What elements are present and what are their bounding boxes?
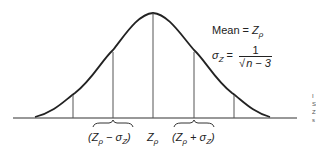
label-text: − σ xyxy=(103,131,122,143)
side-char: s xyxy=(312,116,316,124)
label-sub: ρ xyxy=(154,137,159,146)
label-minus-sigma: (Zρ − σZ) xyxy=(88,131,131,146)
side-char: Z xyxy=(312,108,316,116)
sigma-annotation: σZ = 1 √n − 3 xyxy=(212,44,272,69)
sigma-symbol: σ xyxy=(212,49,219,61)
mean-annotation: Mean = Zρ xyxy=(212,24,263,39)
sigma-fraction: 1 √n − 3 xyxy=(239,44,272,69)
mean-symbol: Z xyxy=(252,24,259,36)
fraction-denominator: √n − 3 xyxy=(239,57,272,69)
label-text: (Z xyxy=(88,131,98,143)
side-char: S xyxy=(312,100,316,108)
brace-right xyxy=(174,120,214,127)
sigma-subscript: Z xyxy=(219,55,224,64)
label-mean: Zρ xyxy=(147,131,158,146)
equals-sign: = xyxy=(227,49,233,61)
label-text: (Z xyxy=(172,131,182,143)
label-text: ) xyxy=(127,131,131,143)
label-plus-sigma: (Zρ + σZ) xyxy=(172,131,215,146)
mean-subscript: ρ xyxy=(259,30,264,39)
radicand: n − 3 xyxy=(245,56,272,69)
label-text: + σ xyxy=(187,131,206,143)
mean-label: Mean = xyxy=(212,24,249,36)
side-char: I xyxy=(312,92,316,100)
brace-left xyxy=(93,120,133,127)
label-text: ) xyxy=(211,131,215,143)
cropped-side-text: I S Z s xyxy=(312,92,316,124)
label-text: Z xyxy=(147,131,154,143)
